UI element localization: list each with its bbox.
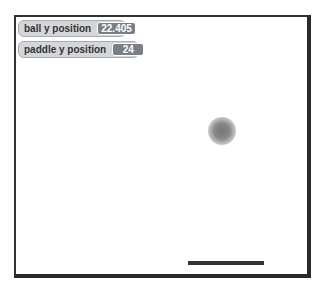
paddle-sprite[interactable] [188,261,264,265]
monitor-label: ball y position [24,23,91,34]
ball-sprite[interactable] [208,117,236,145]
monitor-value: 22.405 [97,22,136,35]
monitor-label: paddle y position [24,44,106,55]
game-stage[interactable]: ball y position 22.405 paddle y position… [14,15,311,278]
monitor-value: 24 [112,43,144,56]
monitor-paddle-y-position: paddle y position 24 [18,41,139,58]
monitor-ball-y-position: ball y position 22.405 [18,20,126,37]
